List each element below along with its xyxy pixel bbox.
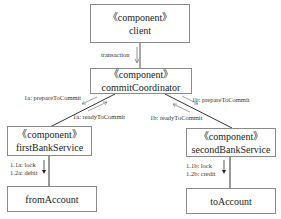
stereotype-label: 《component》 [17, 128, 81, 141]
component-name: client [129, 24, 151, 37]
stereotype-label: 《component》 [108, 11, 172, 24]
component-to-account[interactable]: toAccount [186, 188, 276, 214]
message-transaction: transaction [101, 51, 130, 59]
message-1b-ready: 1b: readyToCommit [150, 114, 202, 122]
message-1-2b-credit: 1.2b: credit [186, 170, 216, 178]
component-name: commitCoordinator [102, 81, 181, 94]
component-from-account[interactable]: fromAccount [7, 186, 97, 212]
component-name: secondBankService [192, 143, 271, 156]
component-first-bank-service[interactable]: 《component》 firstBankService [7, 126, 92, 156]
component-commit-coordinator[interactable]: 《component》 commitCoordinator [90, 68, 192, 94]
component-second-bank-service[interactable]: 《component》 secondBankService [186, 128, 276, 157]
stereotype-label: 《component》 [199, 130, 263, 143]
component-client[interactable]: 《component》 client [90, 4, 190, 43]
component-name: toAccount [210, 195, 252, 208]
message-1b-prepare: 1b: prepareToCommit [192, 96, 250, 104]
message-1-1a-lock: 1.1a: lock [10, 161, 36, 169]
message-1-2a-debit: 1.2a: debit [10, 169, 37, 177]
component-name: firstBankService [16, 141, 83, 154]
message-1a-ready: 1a: readyToCommit [73, 113, 125, 121]
message-1a-prepare: 1a: prepareToCommit [24, 94, 81, 102]
component-name: fromAccount [25, 193, 78, 206]
message-1-1b-lock: 1.1b: lock [186, 162, 212, 170]
stereotype-label: 《component》 [109, 68, 173, 81]
